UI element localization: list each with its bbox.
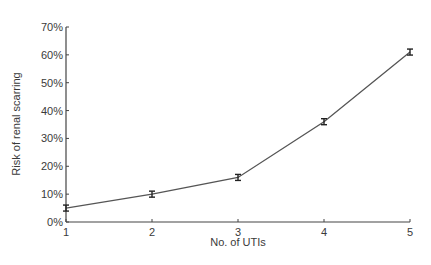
axes [66, 27, 410, 222]
x-tick-label: 5 [407, 226, 413, 238]
data-series [63, 49, 413, 211]
x-axis-label: No. of UTIs [210, 236, 266, 248]
y-tick-label: 30% [41, 132, 63, 144]
y-tick-label: 0% [47, 216, 63, 228]
line-chart: 0%10%20%30%40%50%60%70% 12345 No. of UTI… [0, 0, 431, 265]
y-tick-label: 70% [41, 21, 63, 33]
y-tick-label: 60% [41, 49, 63, 61]
series-line [66, 52, 410, 208]
x-tick-label: 1 [63, 226, 69, 238]
y-axis-label: Risk of renal scarring [10, 72, 22, 175]
y-tick-label: 40% [41, 105, 63, 117]
y-tick-label: 50% [41, 77, 63, 89]
x-tick-label: 4 [321, 226, 327, 238]
x-tick-label: 2 [149, 226, 155, 238]
y-axis-ticks: 0%10%20%30%40%50%60%70% [41, 21, 69, 228]
y-tick-label: 20% [41, 160, 63, 172]
y-tick-label: 10% [41, 188, 63, 200]
